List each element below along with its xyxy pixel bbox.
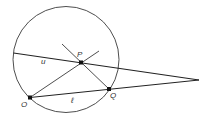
label-p: P — [77, 50, 83, 59]
diagram-canvas: P u O ℓ Q — [0, 0, 215, 119]
label-l: ℓ — [70, 96, 74, 105]
point-o — [28, 96, 32, 100]
label-q: Q — [110, 91, 116, 100]
geometry-diagram: P u O ℓ Q — [0, 0, 215, 119]
label-u: u — [41, 57, 46, 66]
point-p — [79, 61, 83, 65]
label-o: O — [21, 100, 27, 109]
segment-pq — [62, 44, 109, 89]
